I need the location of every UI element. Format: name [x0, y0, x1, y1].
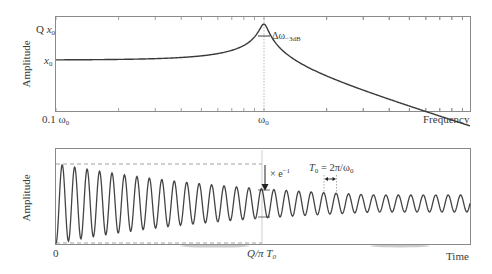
period-label: T0 = 2π/ω0 — [309, 163, 353, 175]
decay-factor-label: × e−1 — [270, 168, 290, 179]
top-panel-frame — [56, 17, 471, 126]
bottom-ylabel: Amplitude — [20, 174, 32, 221]
xtick-zero: 0 — [53, 248, 59, 259]
damped-oscillation-curve — [56, 165, 470, 244]
xtick-decay-time: Q/π T0 — [247, 248, 276, 261]
figure-canvas — [0, 0, 492, 274]
frequency-response-curve — [56, 24, 470, 126]
ytick-q-x0: Q x0 — [36, 24, 55, 37]
bottom-panel-frame — [56, 149, 471, 248]
top-xlabel: Frequency — [423, 114, 469, 125]
xtick-0.1-omega0: 0.1 ω0 — [42, 114, 69, 127]
xtick-omega0: ω0 — [258, 114, 269, 127]
ytick-x0: x0 — [44, 55, 52, 68]
period-arrow-left-icon — [325, 177, 329, 181]
top-ylabel: Amplitude — [20, 40, 32, 87]
bottom-xlabel: Time — [446, 251, 469, 262]
bandwidth-label: Δω−3dB — [272, 31, 301, 43]
period-arrow-right-icon — [333, 177, 337, 181]
